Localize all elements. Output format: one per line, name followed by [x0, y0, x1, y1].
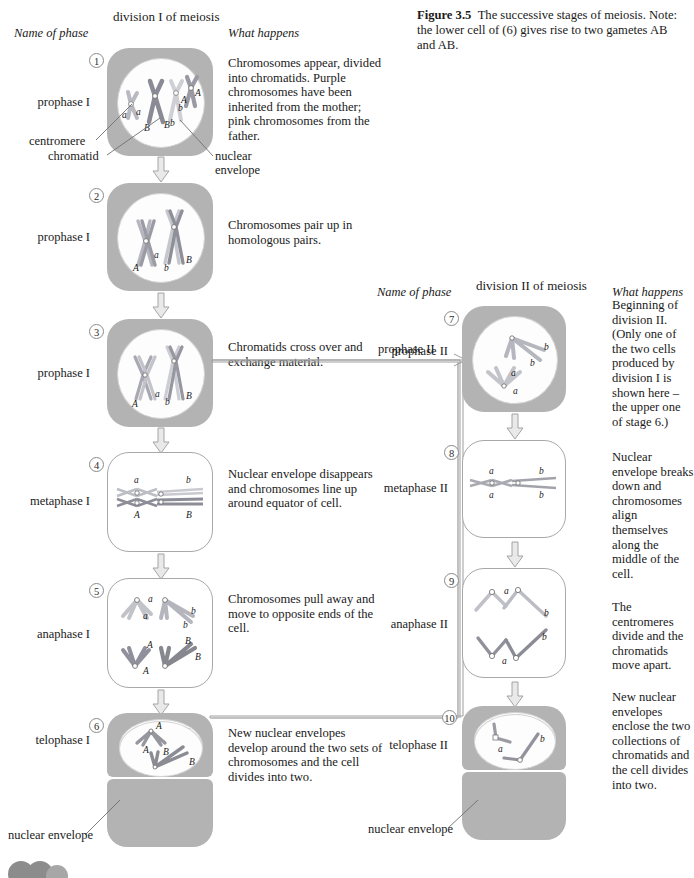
svg-text:b: b [544, 608, 549, 618]
stage-3-phase-label: prophase I [20, 366, 90, 381]
stage-5-cell: a a b b A A B B [107, 578, 213, 688]
svg-text:b: b [170, 118, 175, 128]
svg-text:A: A [180, 95, 187, 105]
stage-8-chromosomes: a a b b [462, 440, 566, 538]
svg-text:A: A [133, 510, 140, 520]
stage-8: a a b b 8 [462, 440, 566, 538]
stage-6-lower-cell: A A B B [107, 779, 213, 847]
stage-4-number: 4 [89, 457, 104, 472]
right-division-header: division II of meiosis [476, 278, 587, 294]
stage-5-description: Chromosomes pull away and move to opposi… [228, 592, 378, 636]
stage-6: b b a a A A B B 6 [107, 713, 213, 847]
stage-7-description: Beginning of division II. (Only one of t… [612, 298, 694, 429]
stage-6-number: 6 [89, 718, 104, 733]
svg-text:B: B [186, 391, 192, 401]
stage-5-number: 5 [89, 583, 104, 598]
stage-4: a A b B 4 [107, 452, 213, 552]
stage-3: A a b B 3 [107, 319, 213, 427]
stage-5-chromosomes: a a b b A A B B [107, 578, 213, 688]
stage-1-phase-label: prophase I [20, 95, 90, 110]
figure-caption: Figure 3.5 The successive stages of meio… [417, 8, 685, 54]
stage-9: a b a b 9 [462, 568, 566, 678]
nuclear-envelope-annotation-line1: nuclear [215, 149, 252, 164]
stage-3-cell: A a b B [107, 319, 213, 427]
figure-label: Figure 3.5 [417, 8, 471, 22]
svg-text:B: B [185, 636, 191, 646]
svg-text:a: a [122, 110, 127, 120]
stage-1: a a B B b b A A 1 [107, 48, 213, 156]
centromere-annotation: centromere [29, 134, 85, 149]
svg-text:a: a [504, 586, 509, 596]
svg-text:b: b [183, 620, 188, 630]
svg-text:a: a [489, 466, 494, 476]
stage-3-chromosomes: A a b B [107, 319, 213, 427]
left-what-happens-header: What happens [228, 26, 299, 41]
svg-text:A: A [132, 263, 139, 273]
chromatid-annotation: chromatid [48, 149, 99, 164]
svg-text:a: a [154, 250, 159, 260]
svg-text:b: b [191, 606, 196, 616]
svg-text:A: A [194, 88, 201, 98]
svg-text:B: B [189, 757, 195, 767]
stage-3-description: Chromatids cross over and exchange mater… [228, 340, 388, 369]
stage-7-cell: b b a a [462, 306, 566, 412]
stage-5-phase-label: anaphase I [14, 627, 90, 642]
stage-2-number: 2 [89, 188, 104, 203]
svg-text:a: a [136, 107, 141, 117]
stage-4-chromosomes: a A b B [107, 452, 213, 552]
svg-text:a: a [511, 368, 516, 378]
svg-text:B: B [195, 652, 201, 662]
svg-text:B: B [186, 510, 192, 520]
svg-text:B: B [144, 123, 150, 133]
svg-text:A: A [146, 640, 153, 650]
stage-8-cell: a a b b [462, 440, 566, 538]
svg-text:A: A [142, 745, 149, 755]
stage-4-cell: a A b B [107, 452, 213, 552]
svg-text:b: b [542, 632, 547, 642]
svg-text:a: a [498, 744, 503, 754]
svg-text:a: a [134, 475, 139, 485]
stage-10-description: New nuclear envelopes enclose the two co… [612, 690, 694, 792]
nuclear-envelope-right-annotation: nuclear envelope [368, 822, 453, 837]
flow-arrow-7-to-8 [506, 414, 524, 440]
stage-6-phase-label: telophase I [14, 733, 90, 748]
stage-10: a b a b 10 [462, 706, 566, 840]
svg-text:B: B [186, 255, 192, 265]
svg-text:b: b [186, 475, 191, 485]
stage-5: a a b b A A B B 5 [107, 578, 213, 688]
stage-9-cell: a b a b [462, 568, 566, 678]
stage-10-lower-chromosomes: a b [462, 706, 566, 774]
flow-arrow-1-to-2 [152, 157, 170, 183]
svg-text:a: a [513, 386, 518, 396]
stage-2-cell: A a b B [107, 183, 213, 291]
svg-text:b: b [164, 263, 169, 273]
svg-text:a: a [143, 611, 148, 621]
connector-stage6-to-stage7 [210, 352, 470, 724]
stage-6-lower-chromosomes: A A B B [107, 713, 213, 781]
svg-text:a: a [502, 656, 507, 666]
flow-arrow-2-to-3 [152, 293, 170, 319]
svg-text:A: A [142, 666, 149, 676]
stage-8-description: Nuclear envelope breaks down and chromos… [612, 450, 694, 581]
stage-7-number: 7 [444, 311, 459, 326]
stage-9-phase-label: anaphase II [364, 617, 448, 632]
svg-text:b: b [544, 342, 549, 352]
stage-8-number: 8 [444, 445, 459, 460]
svg-text:b: b [539, 466, 544, 476]
right-name-of-phase-header: Name of phase [377, 285, 451, 300]
stage-1-description: Chromosomes appear, divided into chromat… [228, 56, 384, 144]
svg-text:A: A [131, 399, 138, 409]
svg-text:b: b [530, 358, 535, 368]
stage-4-phase-label: metaphase I [12, 494, 90, 509]
left-name-of-phase-header: Name of phase [14, 26, 88, 41]
svg-text:a: a [148, 594, 153, 604]
stage-7-chromosomes: b b a a [462, 306, 566, 412]
svg-text:B: B [163, 747, 169, 757]
flow-arrow-4-to-5 [152, 554, 170, 580]
flow-arrow-3-to-4 [152, 428, 170, 454]
stage-2: A a b B 2 [107, 183, 213, 291]
svg-text:a: a [155, 389, 160, 399]
svg-text:b: b [165, 397, 170, 407]
stage-9-number: 9 [444, 573, 459, 588]
svg-text:a: a [489, 490, 494, 500]
